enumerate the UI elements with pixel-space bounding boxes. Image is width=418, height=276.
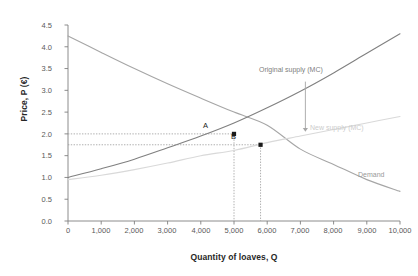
point-b-label: B [231,132,236,141]
new-supply-label: New supply (MC) [310,124,364,131]
point-a-label: A [203,121,208,130]
original-supply-label: Original supply (MC) [259,66,323,73]
supply-demand-chart: Price, P (€) 4.5 4.0 3.5 3.0 2.5 2.0 1.5… [0,0,418,276]
demand-label: Demand [358,171,384,178]
guide-lines [68,134,261,221]
plot-area [0,0,418,276]
